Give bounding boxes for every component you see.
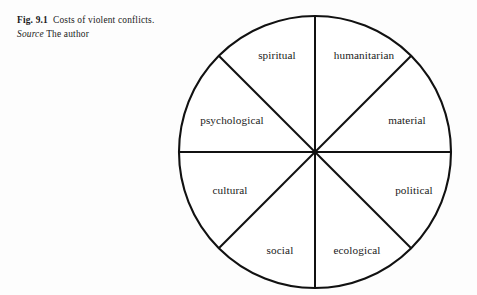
sector-label-social: social: [267, 244, 294, 256]
sector-label-psychological: psychological: [200, 114, 264, 126]
sector-label-material: material: [388, 114, 426, 126]
sector-label-humanitarian: humanitarian: [334, 49, 394, 61]
figure-container: Fig. 9.1 Costs of violent conflicts. Sou…: [0, 0, 477, 295]
pie-wheel-diagram: spiritual humanitarian material politica…: [0, 0, 477, 295]
sector-label-cultural: cultural: [212, 184, 247, 196]
sector-label-political: political: [395, 184, 433, 196]
sector-label-spiritual: spiritual: [258, 49, 296, 61]
pie-wheel-svg: [0, 0, 477, 295]
sector-label-ecological: ecological: [333, 244, 380, 256]
